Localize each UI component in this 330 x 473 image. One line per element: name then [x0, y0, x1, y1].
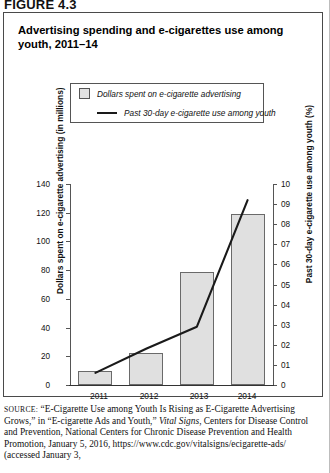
- legend-item-bar: Dollars spent on e-cigarette advertising: [71, 84, 263, 103]
- figure-label: FIGURE 4.3: [4, 0, 77, 12]
- plot-area: [70, 184, 273, 385]
- y-left-tick-label: 60: [10, 294, 50, 303]
- y-left-tick-label: 100: [10, 237, 50, 246]
- figure-box: Advertising spending and e-cigarettes us…: [3, 12, 323, 397]
- chart-legend: Dollars spent on e-cigarette advertising…: [70, 83, 264, 123]
- y-right-tick-label: 02: [281, 340, 307, 349]
- y-right-tick-label: 10: [281, 180, 307, 189]
- x-tick-label-2011: 2011: [76, 391, 122, 401]
- y-right-tick-label: 01: [281, 360, 307, 369]
- source-italic-title: Vital Signs: [159, 416, 199, 426]
- legend-swatch-icon: [79, 88, 90, 99]
- y-right-tick-label: 03: [281, 320, 307, 329]
- y-right-tick-label: 09: [281, 200, 307, 209]
- legend-label-line: Past 30-day e-cigarette use among youth: [124, 108, 276, 118]
- source-prefix: SOURCE:: [4, 405, 38, 414]
- y-axis-right-line: [273, 184, 274, 385]
- y-right-tick-label: 07: [281, 240, 307, 249]
- y-right-tick-label: 05: [281, 280, 307, 289]
- y-right-tick-label: 08: [281, 220, 307, 229]
- trend-line-path: [95, 200, 247, 373]
- y-left-tick-label: 20: [10, 352, 50, 361]
- y-left-tick-label: 80: [10, 266, 50, 275]
- y-left-tick-label: 0: [10, 381, 50, 390]
- x-tick-label-2013: 2013: [176, 391, 222, 401]
- legend-line-icon: [97, 112, 117, 114]
- source-note: SOURCE: “E-Cigarette Use among Youth Is …: [4, 404, 322, 462]
- legend-label-bar: Dollars spent on e-cigarette advertising: [97, 89, 241, 99]
- chart-title: Advertising spending and e-cigarettes us…: [18, 23, 308, 51]
- y-left-tick-label: 40: [10, 323, 50, 332]
- trend-line-series: [70, 184, 273, 385]
- x-tick-label-2014: 2014: [224, 391, 270, 401]
- x-axis-line: [69, 385, 274, 386]
- y-right-tick-label: 04: [281, 300, 307, 309]
- y-right-tick-label: 0: [281, 381, 307, 390]
- y-left-tick-label: 140: [10, 180, 50, 189]
- y-axis-left-title: Dollars spent on e-cigarette advertising…: [55, 94, 65, 294]
- y-left-tick-label: 120: [10, 208, 50, 217]
- legend-item-line: Past 30-day e-cigarette use among youth: [71, 103, 263, 122]
- x-tick-label-2012: 2012: [126, 391, 172, 401]
- y-right-tick-label: 06: [281, 260, 307, 269]
- source-line-1: “E-Cigarette Use among Youth Is Rising a…: [38, 404, 249, 414]
